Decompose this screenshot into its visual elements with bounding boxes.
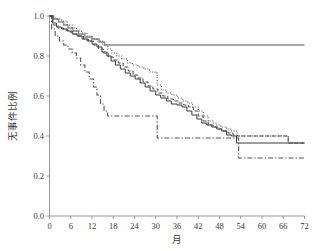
y-axis-title: 无事件比例 xyxy=(7,91,18,141)
y-tick-label: 0.0 xyxy=(33,211,44,221)
x-tick-label: 42 xyxy=(194,221,203,231)
x-tick-label: 24 xyxy=(130,221,139,231)
x-tick-label: 36 xyxy=(173,221,182,231)
curve-dotted xyxy=(50,16,305,143)
axis-labels-group: 0.00.20.40.60.81.00612182430364248546066… xyxy=(7,11,309,245)
x-tick-label: 60 xyxy=(258,221,267,231)
x-tick-label: 48 xyxy=(215,221,224,231)
x-tick-label: 0 xyxy=(47,221,51,231)
axis-group xyxy=(47,16,305,220)
curve-black-solid xyxy=(50,16,305,143)
x-tick-label: 30 xyxy=(152,221,161,231)
y-tick-label: 0.6 xyxy=(33,91,44,101)
y-tick-label: 1.0 xyxy=(33,11,44,21)
survival-chart: 0.00.20.40.60.81.00612182430364248546066… xyxy=(0,0,315,251)
x-tick-label: 54 xyxy=(237,221,246,231)
x-tick-label: 72 xyxy=(300,221,309,231)
y-tick-label: 0.8 xyxy=(33,51,44,61)
x-tick-label: 66 xyxy=(279,221,288,231)
curves-group xyxy=(50,16,305,158)
y-tick-label: 0.4 xyxy=(33,131,44,141)
kaplan-meier-plot: 0.00.20.40.60.81.00612182430364248546066… xyxy=(0,0,315,251)
x-tick-label: 6 xyxy=(69,221,73,231)
x-tick-label: 18 xyxy=(109,221,118,231)
curve-dashed xyxy=(50,16,305,143)
y-tick-label: 0.2 xyxy=(33,171,44,181)
x-tick-label: 12 xyxy=(88,221,97,231)
x-axis-title: 月 xyxy=(172,235,182,245)
